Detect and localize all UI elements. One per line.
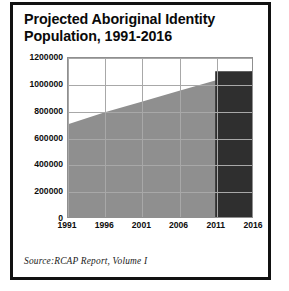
y-axis-tick-label: 400000 bbox=[19, 159, 63, 169]
y-axis-tick-label: 200000 bbox=[19, 186, 63, 196]
x-axis-tick-label: 1991 bbox=[57, 220, 76, 230]
area-chart: 020000040000060000080000010000001200000 … bbox=[20, 50, 260, 235]
gridline-horizontal bbox=[68, 165, 252, 166]
figure-page: Projected Aboriginal Identity Population… bbox=[0, 0, 289, 291]
x-axis-tick-label: 2001 bbox=[132, 220, 151, 230]
gridline-horizontal bbox=[68, 58, 252, 59]
gridline-vertical bbox=[142, 58, 143, 217]
top-divider-rule bbox=[10, 2, 271, 5]
plot-area bbox=[67, 57, 253, 218]
bottom-divider-rule bbox=[10, 277, 271, 280]
x-axis-tick-labels: 199119962001200620112016 bbox=[67, 220, 253, 234]
y-axis-tick-label: 800000 bbox=[19, 106, 63, 116]
area-series bbox=[68, 58, 252, 217]
gridline-horizontal bbox=[68, 85, 252, 86]
x-axis-tick-label: 1996 bbox=[95, 220, 114, 230]
right-margin-rule bbox=[268, 2, 271, 280]
y-axis-tick-label: 0 bbox=[19, 213, 63, 223]
source-caption: Source:RCAP Report, Volume I bbox=[24, 256, 147, 266]
chart-title: Projected Aboriginal Identity Population… bbox=[24, 11, 256, 44]
gridline-horizontal bbox=[68, 139, 252, 140]
y-axis-tick-label: 1000000 bbox=[19, 79, 63, 89]
gridline-horizontal bbox=[68, 112, 252, 113]
left-margin-rule bbox=[10, 2, 13, 280]
gridline-vertical bbox=[68, 58, 69, 217]
y-axis-tick-labels: 020000040000060000080000010000001200000 bbox=[20, 57, 63, 218]
gridline-vertical bbox=[105, 58, 106, 217]
x-axis-tick-label: 2006 bbox=[169, 220, 188, 230]
chart-title-line-2: Population, 1991-2016 bbox=[24, 28, 256, 45]
x-axis-tick-label: 2011 bbox=[206, 220, 225, 230]
area-fill-projection bbox=[215, 71, 252, 217]
gridline-horizontal bbox=[68, 192, 252, 193]
x-axis-tick-label: 2016 bbox=[243, 220, 262, 230]
y-axis-tick-label: 600000 bbox=[19, 133, 63, 143]
y-axis-tick-label: 1200000 bbox=[19, 52, 63, 62]
gridline-vertical bbox=[217, 58, 218, 217]
chart-title-line-1: Projected Aboriginal Identity bbox=[24, 11, 256, 28]
gridline-vertical bbox=[180, 58, 181, 217]
